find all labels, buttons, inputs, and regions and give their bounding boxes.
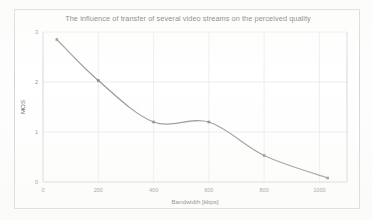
x-tick-label-200: 200: [94, 187, 103, 193]
x-tick-label-600: 600: [204, 187, 213, 193]
x-axis-title: Bandwidth [kbps]: [171, 198, 218, 205]
y-tick-label-1: 1: [35, 129, 38, 135]
page-background: The influence of transfer of several vid…: [0, 0, 372, 220]
y-axis-title: MOS: [19, 100, 26, 114]
data-point-400: [152, 121, 155, 124]
x-tick-label-400: 400: [149, 187, 158, 193]
chart-plot-area: 3 2 1 0 0 200 400 600 800 1000 Bandwidth…: [15, 10, 361, 210]
x-tick-label-1000: 1000: [313, 187, 325, 193]
data-point-200: [97, 79, 100, 82]
y-tick-label-0: 0: [35, 179, 38, 185]
x-tick-label-800: 800: [259, 187, 268, 193]
data-point-600: [208, 121, 211, 124]
data-point-800: [263, 154, 266, 157]
y-tick-label-3: 3: [35, 29, 38, 35]
y-tick-label-2: 2: [35, 79, 38, 85]
data-point-1030: [326, 177, 329, 180]
plot-background: [43, 32, 347, 182]
chart-frame: The influence of transfer of several vid…: [14, 9, 360, 209]
x-tick-label-0: 0: [41, 187, 44, 193]
data-point-50: [56, 38, 59, 41]
